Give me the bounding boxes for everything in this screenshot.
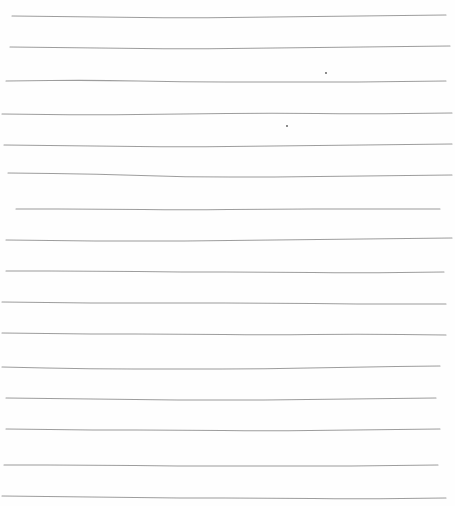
ruled-line-14 — [6, 429, 440, 431]
ruled-line-10 — [2, 302, 446, 304]
ruled-line-7 — [16, 209, 440, 210]
ruled-line-1 — [12, 15, 446, 18]
ruled-line-8 — [6, 238, 452, 241]
paper-speck-1 — [325, 72, 327, 74]
ruled-line-2 — [10, 46, 450, 49]
ruled-line-6 — [8, 173, 452, 177]
ruled-line-9 — [6, 271, 444, 273]
ruled-line-13 — [6, 398, 436, 400]
ruled-line-11 — [2, 333, 446, 335]
ruled-line-12 — [2, 366, 440, 369]
ruled-line-15 — [4, 465, 438, 466]
ruled-line-3 — [6, 80, 446, 82]
lined-paper-sheet — [0, 0, 455, 506]
ruled-lines — [0, 0, 455, 506]
ruled-line-5 — [4, 144, 452, 147]
ruled-line-16 — [2, 496, 446, 499]
paper-speck-2 — [286, 125, 288, 127]
ruled-line-4 — [2, 113, 452, 115]
